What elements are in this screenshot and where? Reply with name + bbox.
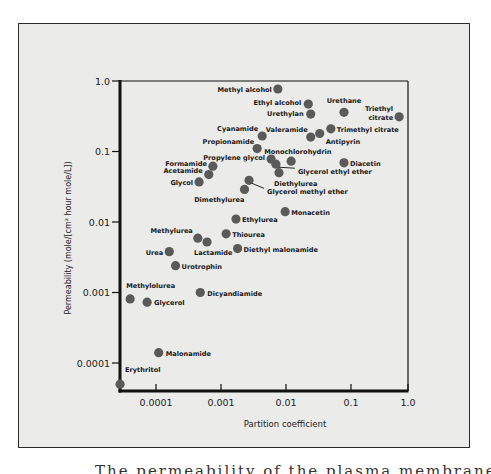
point-label: Antipyrin	[326, 138, 361, 146]
point-label: Ethyl alcohol	[253, 99, 301, 107]
x-axis-label: Partition coefficient	[244, 419, 327, 429]
y-tick-label: 0.001	[83, 287, 110, 298]
point-marker	[154, 348, 163, 357]
data-point: Acetamide	[163, 167, 213, 180]
point-label: Methyl alcohol	[218, 86, 272, 94]
data-point: Triethylcitrate	[365, 105, 404, 122]
point-marker	[193, 234, 202, 243]
point-marker	[315, 129, 324, 138]
point-label: Urethylan	[267, 110, 304, 118]
point-label: Ethylurea	[242, 216, 278, 224]
data-point: Valeramide	[266, 126, 316, 142]
x-tick-label: 0.1	[343, 397, 358, 408]
data-point: Urotrophin	[171, 261, 222, 271]
data-point: Trimethyl citrate	[326, 124, 399, 134]
point-label: Methylolurea	[126, 282, 175, 290]
point-label: Diacetin	[350, 160, 381, 168]
point-marker	[306, 109, 315, 118]
figure-caption: The permeability of the plasma membrane …	[95, 462, 491, 474]
y-tick-label: 0.1	[95, 146, 110, 157]
point-label: Glycerol ethyl ether	[298, 168, 373, 176]
point-marker	[240, 185, 249, 194]
point-marker	[222, 229, 231, 238]
data-point: Dicyandiamide	[196, 288, 263, 298]
data-point: Diethyl malonamide	[233, 244, 319, 254]
point-marker	[231, 214, 240, 223]
point-marker	[115, 380, 124, 389]
point-label: Monacetin	[291, 209, 330, 217]
point-marker	[171, 261, 180, 270]
data-point: Glycol	[170, 177, 203, 187]
x-tick-label: 1.0	[400, 397, 415, 408]
point-label: Glycerol	[154, 299, 184, 307]
data-point: Methyl alcohol	[218, 84, 283, 94]
point-label: Urotrophin	[182, 263, 223, 271]
point-label: Methylurea	[151, 227, 193, 235]
point-label: Trimethyl citrate	[337, 126, 400, 134]
point-marker	[326, 124, 335, 133]
point-label: Glycerol methyl ether	[267, 188, 349, 196]
data-point: Ethyl alcohol	[253, 99, 312, 109]
point-marker	[194, 177, 203, 186]
data-point: Urea	[146, 247, 174, 257]
data-point: Glycerol	[143, 298, 185, 308]
data-point: Urethane	[327, 97, 362, 117]
point-label: Dimethylurea	[194, 196, 244, 204]
data-point: Dimethylurea	[194, 185, 249, 205]
point-marker	[273, 84, 282, 93]
data-point: Malonamide	[154, 348, 211, 358]
x-tick-label: 0.01	[275, 397, 296, 408]
scatter-chart: 1.00.10.010.0010.00010.00010.0010.010.11…	[0, 0, 491, 474]
point-marker	[143, 298, 152, 307]
data-point: Monacetin	[281, 207, 331, 217]
data-point: Urethylan	[267, 109, 315, 118]
data-point: Ethylurea	[231, 214, 277, 224]
point-marker	[208, 162, 217, 171]
point-marker	[339, 108, 348, 117]
point-marker	[165, 247, 174, 256]
point-marker	[233, 244, 242, 253]
y-axis-label: Permeability (mole/[cm² hour mole/L])	[64, 161, 73, 314]
leader-line	[252, 183, 264, 188]
data-point: Erythritol	[115, 366, 160, 389]
x-tick-label: 0.0001	[139, 397, 172, 408]
point-label: Monochlorohydrin	[264, 148, 332, 156]
point-marker	[202, 237, 211, 246]
data-point: Diacetin	[339, 158, 381, 168]
point-marker	[196, 288, 205, 297]
point-label: Triethylcitrate	[365, 105, 394, 122]
point-label: Dicyandiamide	[207, 290, 262, 298]
point-label: Urea	[146, 249, 164, 257]
point-marker	[258, 131, 267, 140]
leader-line	[279, 167, 295, 168]
point-label: Diethylurea	[274, 180, 317, 188]
y-tick-label: 1.0	[95, 76, 110, 87]
point-label: Propionamide	[203, 138, 255, 146]
data-point: Thiourea	[222, 229, 265, 239]
point-marker	[339, 158, 348, 167]
point-label: Erythritol	[125, 366, 160, 374]
y-tick-label: 0.0001	[77, 358, 110, 369]
point-marker	[126, 294, 135, 303]
point-marker	[204, 170, 213, 179]
data-points: Methyl alcoholEthyl alcoholUrethylanUret…	[115, 84, 403, 388]
point-label: Cyanamide	[217, 125, 259, 133]
point-label: Acetamide	[163, 167, 203, 175]
point-label: Urethane	[327, 97, 362, 105]
y-tick-label: 0.01	[89, 217, 110, 228]
data-point: Methylurea	[151, 227, 203, 243]
point-label: Propylene glycol	[203, 154, 265, 162]
point-marker	[287, 157, 296, 166]
point-marker	[304, 100, 313, 109]
point-marker	[281, 207, 290, 216]
point-label: Thiourea	[232, 231, 265, 239]
point-label: Valeramide	[266, 126, 308, 134]
point-label: Diethyl malonamide	[244, 246, 319, 254]
point-label: Glycol	[170, 179, 193, 187]
x-tick-label: 0.001	[207, 397, 234, 408]
point-label: Lactamide	[194, 249, 233, 257]
point-marker	[274, 168, 283, 177]
point-label: Malonamide	[166, 350, 212, 358]
point-marker	[395, 112, 404, 121]
data-point: Propionamide	[203, 138, 262, 154]
